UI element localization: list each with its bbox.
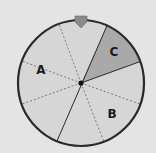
- section-label-a: A: [36, 63, 46, 77]
- spinner-figure: A B C: [0, 0, 156, 153]
- section-label-b: B: [107, 107, 116, 121]
- section-label-c: C: [110, 45, 119, 59]
- pivot-dot: [78, 80, 83, 85]
- spinner-svg: A B C: [0, 0, 156, 153]
